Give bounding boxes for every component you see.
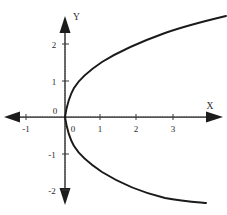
x-tick-label-1: 1 xyxy=(98,124,103,134)
x-tick-label-3: 3 xyxy=(171,124,176,134)
y-tick-labels: 2 1 0 -1 -2 xyxy=(48,40,58,196)
x-tick-label--1: -1 xyxy=(22,124,30,134)
graph-figure: -1 0 1 2 3 2 1 0 -1 -2 Y X xyxy=(0,0,227,215)
x-tick-labels: -1 0 1 2 3 xyxy=(22,124,176,134)
x-axis-label: X xyxy=(207,101,214,111)
parabola-curve xyxy=(65,16,226,203)
x-axis xyxy=(4,112,223,123)
y-axis xyxy=(60,16,71,205)
y-axis-bottom-arrow-icon xyxy=(60,188,71,205)
x-axis-right-arrow-icon xyxy=(206,112,223,123)
x-tick-label-2: 2 xyxy=(134,124,139,134)
y-tick-label-0: 0 xyxy=(53,106,58,116)
y-axis-top-arrow-icon xyxy=(60,16,71,33)
y-tick-label--2: -2 xyxy=(48,186,56,196)
upper-branch-path xyxy=(65,16,226,117)
y-tick-label-1: 1 xyxy=(52,77,57,87)
y-tick-label--1: -1 xyxy=(48,150,56,160)
y-tick-label-2: 2 xyxy=(52,40,57,50)
cartesian-plot: -1 0 1 2 3 2 1 0 -1 -2 Y X xyxy=(0,0,227,215)
x-axis-left-arrow-icon xyxy=(4,112,20,123)
x-tick-label-0: 0 xyxy=(71,124,76,134)
y-axis-label: Y xyxy=(73,12,80,22)
